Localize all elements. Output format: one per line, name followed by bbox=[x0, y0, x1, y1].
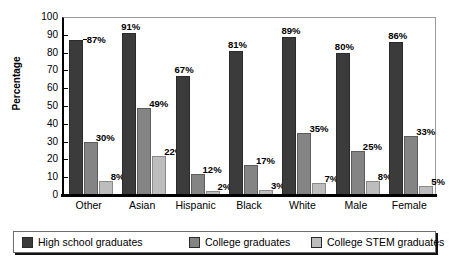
bar-group: 86%33%5% bbox=[389, 17, 433, 195]
bar-value-label: 49% bbox=[149, 99, 168, 109]
y-tick-mark bbox=[62, 53, 68, 54]
legend-label: College graduates bbox=[205, 236, 290, 248]
bar-value-label: 87% bbox=[87, 35, 106, 45]
bar-value-label: 80% bbox=[335, 42, 354, 52]
bar-value-label: 67% bbox=[175, 65, 194, 75]
legend: High school graduatesCollege graduatesCo… bbox=[13, 231, 436, 253]
x-axis-category-labels: OtherAsianHispanicBlackWhiteMaleFemale bbox=[62, 199, 436, 215]
legend-swatch-icon bbox=[311, 237, 322, 248]
x-axis-label: Black bbox=[222, 199, 275, 211]
bar-value-label: 5% bbox=[431, 177, 445, 187]
legend-item[interactable]: College STEM graduates bbox=[311, 232, 444, 252]
bar bbox=[404, 136, 418, 195]
bar-group: 81%17%3% bbox=[229, 17, 273, 195]
bar bbox=[229, 51, 243, 195]
x-axis-label: Female bbox=[383, 199, 436, 211]
bar-group: 67%12%2% bbox=[176, 17, 220, 195]
y-tick-label: 70 bbox=[32, 65, 58, 75]
x-axis-label: Male bbox=[329, 199, 382, 211]
bar bbox=[351, 151, 365, 196]
bar bbox=[137, 108, 151, 195]
x-axis-label: Hispanic bbox=[169, 199, 222, 211]
bar bbox=[191, 174, 205, 195]
y-tick-mark bbox=[62, 159, 68, 160]
bar-value-label: 91% bbox=[121, 22, 140, 32]
y-tick-mark bbox=[62, 142, 68, 143]
legend-label: High school graduates bbox=[38, 236, 142, 248]
legend-swatch-icon bbox=[22, 237, 33, 248]
bar bbox=[282, 37, 296, 195]
x-axis-label: White bbox=[276, 199, 329, 211]
bar bbox=[122, 33, 136, 195]
x-axis-label: Other bbox=[62, 199, 115, 211]
bar-value-label: 89% bbox=[281, 26, 300, 36]
y-tick-label: 100 bbox=[32, 12, 58, 22]
legend-swatch-icon bbox=[189, 237, 200, 248]
bar bbox=[366, 181, 380, 195]
plot-area: 87%30%8%91%49%22%67%12%2%81%17%3%89%35%7… bbox=[62, 17, 436, 195]
y-tick-mark bbox=[62, 124, 68, 125]
x-axis-label: Asian bbox=[115, 199, 168, 211]
y-tick-label: 60 bbox=[32, 83, 58, 93]
x-axis-line bbox=[61, 194, 437, 197]
bar-value-label: 35% bbox=[309, 124, 328, 134]
y-axis-title: Percentage bbox=[11, 24, 22, 144]
bar-group: 91%49%22% bbox=[122, 17, 166, 195]
bar-value-label: 12% bbox=[203, 165, 222, 175]
bar bbox=[99, 181, 113, 195]
y-axis-tick-labels: 1009080706050403020100 bbox=[28, 0, 58, 265]
bar-group: 87%30%8% bbox=[69, 17, 113, 195]
bar bbox=[84, 142, 98, 195]
bar-value-label: 33% bbox=[416, 127, 435, 137]
bar bbox=[336, 53, 350, 195]
bar bbox=[244, 165, 258, 195]
y-tick-label: 0 bbox=[32, 190, 58, 200]
y-tick-label: 80 bbox=[32, 48, 58, 58]
y-tick-label: 50 bbox=[32, 101, 58, 111]
y-tick-label: 40 bbox=[32, 119, 58, 129]
bar bbox=[69, 40, 83, 195]
y-tick-label: 90 bbox=[32, 30, 58, 40]
bar-value-label: 25% bbox=[363, 142, 382, 152]
legend-label: College STEM graduates bbox=[327, 236, 444, 248]
y-tick-mark bbox=[62, 88, 68, 89]
bar bbox=[389, 42, 403, 195]
bar-chart: Percentage 1009080706050403020100 87%30%… bbox=[0, 0, 450, 265]
bar bbox=[297, 133, 311, 195]
bar-group: 80%25%8% bbox=[336, 17, 380, 195]
y-tick-mark bbox=[62, 106, 68, 107]
y-tick-mark bbox=[62, 177, 68, 178]
legend-item[interactable]: High school graduates bbox=[22, 232, 142, 252]
bar-value-label: 86% bbox=[388, 31, 407, 41]
y-tick-label: 20 bbox=[32, 154, 58, 164]
bar-value-label: 81% bbox=[228, 40, 247, 50]
bar-value-label: 17% bbox=[256, 156, 275, 166]
y-tick-label: 10 bbox=[32, 172, 58, 182]
bar-group: 89%35%7% bbox=[282, 17, 326, 195]
bar bbox=[176, 76, 190, 195]
y-tick-label: 30 bbox=[32, 137, 58, 147]
bar-value-label: 30% bbox=[96, 133, 115, 143]
y-tick-mark bbox=[62, 70, 68, 71]
bar bbox=[152, 156, 166, 195]
legend-item[interactable]: College graduates bbox=[189, 232, 290, 252]
y-tick-mark bbox=[62, 35, 68, 36]
